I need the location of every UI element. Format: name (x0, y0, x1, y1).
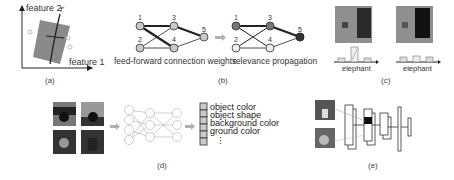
x-axis-label: feature 1 (69, 57, 105, 67)
annotation-f: f' (60, 5, 64, 14)
arrow-icon (110, 123, 120, 130)
elephant-label-right: elephant (403, 64, 432, 73)
panel-a-caption: (a) (45, 76, 55, 85)
attr-ellipsis: ⋮ (216, 136, 225, 147)
node-4-r: 4 (268, 36, 272, 43)
node-2-r: 2 (234, 36, 238, 43)
node-1: 1 (138, 14, 142, 21)
feed-forward-label: feed-forward connection weights (114, 56, 236, 66)
node-1-r: 1 (234, 14, 238, 21)
node-5-r: 5 (298, 26, 302, 33)
node-4: 4 (172, 36, 176, 43)
panel-d-caption: (d) (157, 161, 167, 170)
elephant-label-left: elephant (342, 64, 371, 73)
relevance-label: relevance propagation (233, 56, 317, 66)
attr-ground-color: ground color (210, 126, 260, 137)
node-3-r: 3 (268, 14, 272, 21)
elephant-images (330, 0, 454, 95)
panel-b-caption: (b) (218, 76, 228, 85)
panel-e: (e) (300, 95, 454, 180)
panel-b: 1 2 3 4 5 1 2 3 4 5 feed-forward connect… (110, 0, 330, 95)
node-2: 2 (138, 36, 142, 43)
feature-space-plot (0, 0, 110, 95)
panel-c: elephant elephant (c) (330, 0, 454, 95)
panel-e-caption: (e) (368, 161, 378, 170)
y-axis-label: feature 2 (26, 3, 62, 13)
arrow-icon (215, 34, 226, 41)
node-5: 5 (202, 26, 206, 33)
panel-d: object color object shape background col… (50, 95, 280, 180)
panel-a: feature 2 f' feature 1 (a) (0, 0, 110, 95)
arrow-icon (185, 123, 195, 130)
panel-c-caption: (c) (381, 76, 390, 85)
node-3: 3 (172, 14, 176, 21)
